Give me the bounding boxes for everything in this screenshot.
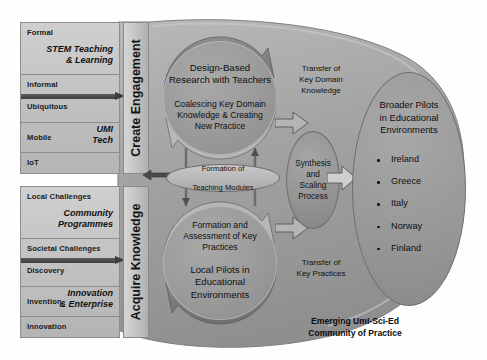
- country-item: Ireland: [375, 155, 422, 164]
- bottom-cycle-main-line1: Local Pilots in: [163, 264, 277, 276]
- synthesis-line4: Process: [298, 192, 328, 201]
- top-cycle-sub-line3: New Practice: [163, 121, 277, 132]
- top-cycle-main-text: Design-Based Research with Teachers: [163, 62, 277, 87]
- synthesis-line3: Scaling: [300, 181, 327, 190]
- label-formal: Formal: [27, 28, 53, 37]
- teaching-modules-ellipse: Formation of Teaching Modules: [166, 164, 280, 192]
- transfer-top-line2: Key Domain: [284, 75, 358, 86]
- bottom-cycle-sub-line2: Assessment of Key: [163, 231, 277, 242]
- progression-arrow-top: [21, 92, 125, 101]
- banner-acquire-knowledge: Acquire Knowledge: [123, 186, 149, 338]
- top-cycle-sub-text: Coalescing Key Domain Knowledge & Creati…: [163, 99, 277, 132]
- transfer-key-practices-label: Transfer of Key Practices: [284, 258, 358, 280]
- label-innovation: Innovation: [27, 322, 66, 331]
- broader-pilots-title-line2: in Educational: [353, 112, 465, 125]
- progression-arrow-bottom: [21, 256, 125, 265]
- label-iot: IoT: [27, 158, 39, 167]
- label-societal-challenges: Societal Challenges: [27, 244, 101, 253]
- banner-create-engagement-label: Create Engagement: [129, 39, 143, 156]
- theme-umi-line1: UMI: [92, 124, 113, 135]
- broader-pilots-title-line1: Broader Pilots: [353, 99, 465, 112]
- theme-stem-teaching: STEM Teaching & Learning: [46, 44, 113, 67]
- diagram-canvas: Formal Informal Ubiquitous Mobile IoT ST…: [0, 0, 487, 360]
- top-cycle-sub-line1: Coalescing Key Domain: [163, 99, 277, 110]
- synthesis-text: Synthesis and Scaling Process: [295, 158, 331, 202]
- label-local-challenges: Local Challenges: [27, 192, 91, 201]
- broader-pilots-title: Broader Pilots in Educational Environmen…: [353, 99, 465, 137]
- theme-umi-tech: UMI Tech: [92, 124, 113, 147]
- theme-community-line1: Community: [58, 208, 113, 219]
- teaching-modules-line1: Formation of: [192, 164, 253, 173]
- transfer-bottom-line1: Transfer of: [284, 258, 358, 269]
- teaching-modules-text: Formation of Teaching Modules: [192, 164, 253, 192]
- country-item: Italy: [375, 199, 422, 208]
- diagram-caption: Emerging UmI-Sci-Ed Community of Practic…: [292, 315, 418, 339]
- caption-line1: Emerging UmI-Sci-Ed: [292, 315, 418, 327]
- theme-stem-line1: STEM Teaching: [46, 44, 113, 55]
- bottom-cycle-circle: Formation and Assessment of Key Practice…: [163, 206, 277, 320]
- bottom-cycle-sub-line3: Practices: [163, 242, 277, 253]
- country-item: Greece: [375, 177, 422, 186]
- transfer-top-line1: Transfer of: [284, 64, 358, 75]
- transfer-top-line3: Knowledge: [284, 86, 358, 97]
- banner-create-engagement: Create Engagement: [123, 22, 149, 174]
- bottom-cycle-sub-text: Formation and Assessment of Key Practice…: [163, 220, 277, 253]
- bottom-cycle-main-line2: Educational: [163, 276, 277, 288]
- theme-innovation-enterprise: Innovation & Enterprise: [59, 288, 113, 311]
- top-cycle-sub-line2: Knowledge & Creating: [163, 110, 277, 121]
- label-ubiquitous: Ubiquitous: [27, 102, 68, 111]
- country-item: Norway: [375, 222, 422, 231]
- synthesis-line2: and: [306, 170, 320, 179]
- transfer-key-domain-knowledge-label: Transfer of Key Domain Knowledge: [284, 64, 358, 96]
- theme-community-line2: Programmes: [58, 219, 113, 230]
- top-cycle-circle: Design-Based Research with Teachers Coal…: [163, 41, 277, 155]
- broader-pilots-title-line3: Environments: [353, 124, 465, 137]
- top-cycle-main-line1: Design-Based: [163, 62, 277, 74]
- banner-acquire-knowledge-label: Acquire Knowledge: [129, 204, 143, 321]
- transfer-bottom-line2: Key Practices: [284, 269, 358, 280]
- bottom-cycle-main-line3: Environments: [163, 289, 277, 301]
- bottom-cycle-main-text: Local Pilots in Educational Environments: [163, 264, 277, 301]
- caption-line2: Community of Practice: [292, 327, 418, 339]
- label-mobile: Mobile: [27, 133, 52, 142]
- bottom-cycle-sub-line1: Formation and: [163, 220, 277, 231]
- theme-innovation-line2: & Enterprise: [59, 299, 113, 310]
- label-informal: Informal: [27, 80, 58, 89]
- synthesis-line1: Synthesis: [295, 159, 331, 168]
- label-invention: Invention: [27, 297, 62, 306]
- country-item: Finland: [375, 244, 422, 253]
- broader-pilots-ellipse: Broader Pilots in Educational Environmen…: [352, 72, 466, 306]
- label-discovery: Discovery: [27, 266, 64, 275]
- theme-community-programmes: Community Programmes: [58, 208, 113, 231]
- theme-umi-line2: Tech: [92, 135, 113, 146]
- teaching-modules-line2: Teaching Modules: [192, 183, 253, 192]
- top-cycle-main-line2: Research with Teachers: [163, 74, 277, 86]
- theme-innovation-line1: Innovation: [59, 288, 113, 299]
- broader-pilots-country-list: Ireland Greece Italy Norway Finland: [375, 155, 422, 266]
- theme-stem-line2: & Learning: [46, 55, 113, 66]
